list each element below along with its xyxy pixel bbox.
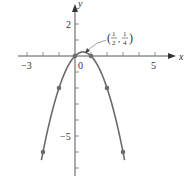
x-tick-label-5: 5 — [151, 60, 156, 71]
data-point — [89, 54, 94, 59]
y-axis: y 2 −5 — [60, 0, 83, 176]
annotation-den2: 4 — [123, 39, 127, 47]
x-axis-label: x — [178, 51, 184, 62]
parabola-curve — [41, 52, 124, 160]
x-tick-label-0: 0 — [78, 60, 83, 71]
annotation-num1: 1 — [112, 30, 116, 38]
annotation-den1: 2 — [112, 39, 116, 47]
y-tick-label-neg5: −5 — [60, 131, 71, 142]
x-axis: x −3 0 5 — [18, 51, 184, 71]
data-point — [121, 150, 126, 155]
svg-text:(: ( — [107, 31, 111, 45]
data-point — [41, 150, 46, 155]
x-tick-label-neg3: −3 — [21, 60, 32, 71]
vertex-annotation: ( 1 2 , 1 4 ) — [85, 30, 133, 53]
svg-text:): ) — [129, 31, 133, 45]
x-axis-arrow-icon — [168, 53, 176, 59]
svg-text:,: , — [118, 34, 120, 44]
annotation-num2: 1 — [123, 30, 127, 38]
parabola-chart: x −3 0 5 y 2 −5 ( 1 2 , 1 4 ) — [0, 0, 186, 184]
y-axis-label: y — [77, 0, 83, 9]
data-point — [57, 86, 62, 91]
data-point — [105, 86, 110, 91]
y-tick-label-2: 2 — [66, 19, 71, 30]
data-point — [73, 54, 78, 59]
